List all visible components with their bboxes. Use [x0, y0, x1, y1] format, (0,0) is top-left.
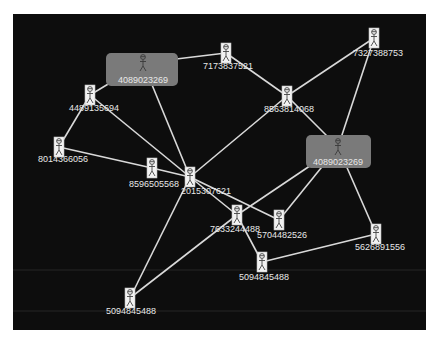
node-label: 4089023269 — [118, 75, 168, 85]
node-label: 5704482526 — [257, 230, 307, 240]
hub-node[interactable]: 4089023269 — [106, 53, 178, 86]
node-label: 8563814068 — [264, 104, 314, 114]
person-icon — [371, 224, 381, 244]
person-icon — [274, 210, 284, 230]
graph-node[interactable]: 7633244488 — [210, 205, 260, 234]
node-label: 5094845488 — [106, 306, 156, 316]
person-icon — [85, 85, 95, 105]
edge-n8563814068-n7327388753 — [287, 38, 374, 96]
node-label: 5626891556 — [355, 242, 405, 252]
node-label: 8596505568 — [129, 179, 179, 189]
person-icon — [282, 86, 292, 106]
node-label: 7173837521 — [203, 61, 253, 71]
graph-node[interactable]: 5094845488 — [106, 288, 156, 316]
person-icon — [369, 28, 379, 48]
node-label: 8014366056 — [38, 154, 88, 164]
graph-node[interactable]: 8563814068 — [264, 86, 314, 114]
hub-node[interactable]: 4089023269 — [306, 135, 371, 168]
person-icon — [257, 252, 267, 272]
node-label: 7633244488 — [210, 224, 260, 234]
node-label: 4489135694 — [69, 103, 119, 113]
graph-node[interactable]: 7173837521 — [203, 43, 253, 71]
graph-node[interactable]: 5704482526 — [257, 210, 307, 240]
person-icon — [147, 158, 157, 178]
graph-node[interactable]: 2015307621 — [181, 167, 231, 196]
node-label: 7327388753 — [353, 48, 403, 58]
person-icon — [125, 288, 135, 308]
person-icon — [232, 205, 242, 225]
node-label: 5094845488 — [239, 272, 289, 282]
background-artifacts — [13, 270, 426, 311]
node-label: 2015307621 — [181, 186, 231, 196]
node-label: 4089023269 — [313, 157, 363, 167]
person-icon — [221, 43, 231, 63]
network-graph: 4089023269408902326971738375217327388753… — [0, 0, 439, 343]
edge-n7173837521-n8563814068 — [226, 53, 287, 96]
graph-node[interactable]: 7327388753 — [353, 28, 403, 58]
graph-node[interactable]: 4489135694 — [69, 85, 119, 113]
node-layer: 4089023269408902326971738375217327388753… — [38, 28, 405, 316]
graph-node[interactable]: 8014366056 — [38, 137, 88, 164]
person-icon — [185, 167, 195, 187]
